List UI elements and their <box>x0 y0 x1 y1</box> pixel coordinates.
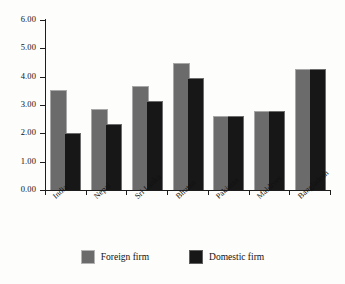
y-axis-tick-label: 4.00 <box>21 70 36 83</box>
y-axis-tick: 6.00 <box>40 20 45 21</box>
y-axis-tick: 4.00 <box>40 77 45 78</box>
bar-group <box>254 20 284 190</box>
y-axis-tick: 5.00 <box>40 48 45 49</box>
legend-label: Domestic firm <box>209 251 264 263</box>
y-axis-tick-label: 2.00 <box>21 126 36 139</box>
y-axis-tick: 2.00 <box>40 133 45 134</box>
y-axis-tick: 1.00 <box>40 162 45 163</box>
y-axis-tick-label: 5.00 <box>21 41 36 54</box>
bar-group <box>173 20 203 190</box>
x-axis-tick <box>167 190 168 195</box>
legend-item: Domestic firm <box>189 250 264 264</box>
chart-legend: Foreign firmDomestic firm <box>0 250 345 264</box>
bar-domestic-firm <box>188 78 204 190</box>
foreign-firm-swatch <box>81 250 95 264</box>
y-axis-tick-label: 0.00 <box>21 183 36 196</box>
bar-group <box>91 20 121 190</box>
plot-area: 0.001.002.003.004.005.006.00 <box>45 20 330 190</box>
x-axis-tick <box>208 190 209 195</box>
legend-item: Foreign firm <box>81 250 149 264</box>
x-axis-tick <box>86 190 87 195</box>
y-axis-tick-label: 1.00 <box>21 155 36 168</box>
legend-label: Foreign firm <box>101 251 149 263</box>
x-axis-tick <box>45 190 46 195</box>
x-axis-tick <box>330 190 331 195</box>
x-axis-tick <box>249 190 250 195</box>
y-axis-tick-label: 3.00 <box>21 98 36 111</box>
y-axis-tick-label: 6.00 <box>21 13 36 26</box>
y-axis-tick: 3.00 <box>40 105 45 106</box>
bar-group <box>213 20 243 190</box>
bar-domestic-firm <box>65 133 81 190</box>
bar-chart-figure: 0.001.002.003.004.005.006.00 IndiaNepalS… <box>0 0 345 284</box>
bar-group <box>50 20 80 190</box>
x-axis-tick <box>289 190 290 195</box>
bar-domestic-firm <box>106 124 122 190</box>
bar-group <box>132 20 162 190</box>
x-axis-tick <box>126 190 127 195</box>
domestic-firm-swatch <box>189 250 203 264</box>
bar-group <box>295 20 325 190</box>
